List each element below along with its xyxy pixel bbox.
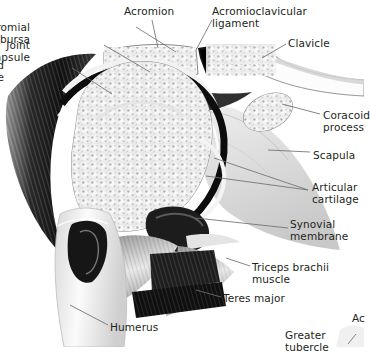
label-acromioclavicular-ligament: Acromioclavicular ligament (212, 6, 307, 29)
label-articular-cartilage: Articular cartilage (312, 182, 359, 205)
label-scapula: Scapula (313, 150, 355, 162)
label-deltoid-muscle: Deltoid muscle (0, 60, 4, 83)
label-acromion: Acromion (124, 6, 174, 18)
label-triceps-brachii-muscle: Triceps brachii muscle (252, 262, 329, 285)
label-teres-major: Teres major (223, 293, 285, 305)
label-joint-capsule: Joint capsule (0, 40, 30, 63)
label-humerus: Humerus (110, 322, 158, 334)
label-clavicle: Clavicle (288, 38, 330, 50)
label-coracoid-process: Coracoid process (323, 110, 370, 133)
label-greater-tubercle: Greater tubercle (285, 330, 364, 353)
label-synovial-membrane: Synovial membrane (290, 219, 348, 242)
label-clipped-right-edge: Ac (352, 313, 365, 325)
